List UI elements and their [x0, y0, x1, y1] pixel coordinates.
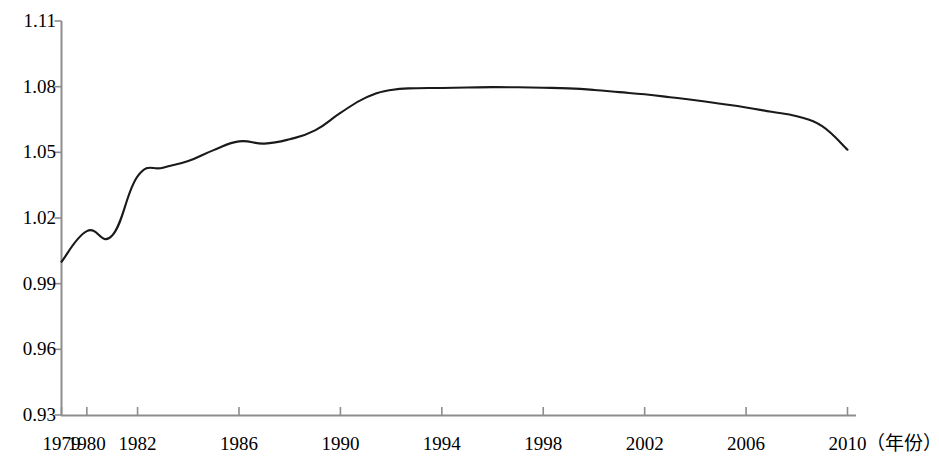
x-axis-tick-label: 1998 — [524, 434, 562, 453]
x-axis-tick-label: 2010 — [829, 434, 867, 453]
line-chart: 1.111.081.051.020.990.960.93 19791980198… — [0, 0, 939, 461]
x-axis-tick-label: 2002 — [626, 434, 664, 453]
x-axis-title: （年份） — [866, 434, 939, 453]
y-axis-tick-label: 0.99 — [0, 274, 56, 293]
x-axis-tick-label: 1980 — [68, 434, 106, 453]
y-axis-tick-label: 1.08 — [0, 77, 56, 96]
x-axis-tick-label: 1982 — [119, 434, 157, 453]
y-axis-tick-label: 0.93 — [0, 405, 56, 424]
x-axis-tick-label: 1986 — [220, 434, 258, 453]
x-axis-tick-label: 1990 — [321, 434, 359, 453]
y-axis-tick-label: 1.11 — [0, 11, 56, 30]
y-axis-tick-label: 1.02 — [0, 208, 56, 227]
chart-plot-area — [0, 0, 939, 461]
x-axis-ticks — [62, 407, 848, 415]
y-axis-tick-label: 1.05 — [0, 142, 56, 161]
data-series-line — [62, 87, 848, 262]
chart-axes — [61, 21, 856, 416]
x-axis-tick-label: 1994 — [423, 434, 461, 453]
x-axis-tick-label: 2006 — [727, 434, 765, 453]
y-axis-tick-label: 0.96 — [0, 339, 56, 358]
